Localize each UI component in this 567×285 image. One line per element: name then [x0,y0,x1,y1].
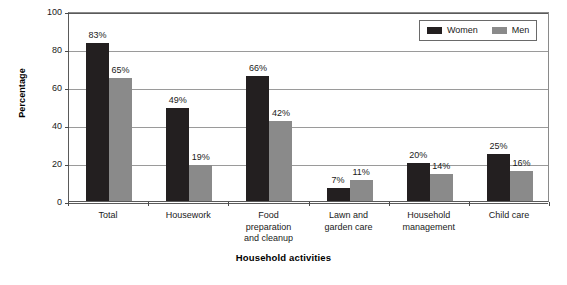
legend-label: Women [447,26,478,35]
x-axis-tick-mark [469,202,470,206]
legend-entry: Men [492,26,530,35]
x-axis-category-label: Foodpreparationand cleanup [222,210,314,245]
bar-men [189,165,212,201]
y-axis-tick-label: 20 [34,160,62,169]
bar-value-label: 66% [242,64,273,73]
x-axis-category-label-line: preparation [222,222,314,234]
bar-women [246,76,269,201]
x-axis-category-label-line: Housework [142,210,234,222]
x-axis-category-label: Child care [463,210,555,222]
legend-entry: Women [427,26,478,35]
y-axis-tick-label: 40 [34,122,62,131]
x-axis-tick-mark [549,202,550,206]
bar-value-label: 49% [162,96,193,105]
y-axis-tick-label: 0 [34,198,62,207]
x-axis-tick-mark [68,202,69,206]
bar-value-label: 20% [403,151,434,160]
x-axis-category-label: Total [62,210,154,222]
bar-men [350,180,373,201]
x-axis-category-label-line: management [383,222,475,234]
x-axis-category-label: Lawn andgarden care [303,210,395,233]
x-axis-tick-mark [309,202,310,206]
bar-men [430,174,453,201]
x-axis-category-label-line: Child care [463,210,555,222]
x-axis-title: Household activities [0,252,567,263]
x-axis-tick-mark [148,202,149,206]
x-axis-tick-mark [389,202,390,206]
bar-value-label: 42% [265,109,296,118]
x-axis-category-label: Housework [142,210,234,222]
bar-group: 7%11% [310,13,390,201]
bar-group: 20%14% [390,13,470,201]
bar-group: 49%19% [149,13,229,201]
chart-legend: WomenMen [419,20,537,41]
bar-value-label: 83% [82,31,113,40]
y-axis-tick-label: 100 [34,8,62,17]
bar-value-label: 11% [346,168,377,177]
y-axis-tick-label: 80 [34,46,62,55]
bar-group: 83%65% [69,13,149,201]
bar-value-label: 65% [105,66,136,75]
legend-swatch-icon [492,27,507,34]
bar-group: 66%42% [229,13,309,201]
x-axis-category-label-line: Lawn and [303,210,395,222]
bar-men [109,78,132,202]
bar-value-label: 25% [483,142,514,151]
legend-swatch-icon [427,27,442,34]
x-axis-category-label-line: Total [62,210,154,222]
bar-value-label: 19% [185,153,216,162]
bar-group: 25%16% [470,13,550,201]
x-axis-category-label-line: Household [383,210,475,222]
x-axis-category-label-line: Food [222,210,314,222]
bar-men [510,171,533,201]
x-axis-category-label: Householdmanagement [383,210,475,233]
x-axis-category-label-line: and cleanup [222,233,314,245]
bar-value-label: 14% [426,162,457,171]
x-axis-category-label-line: garden care [303,222,395,234]
y-axis-tick-label: 60 [34,84,62,93]
legend-label: Men [512,26,530,35]
bar-value-label: 16% [506,159,537,168]
bar-women [327,188,350,201]
bar-men [269,121,292,201]
y-axis-title: Percentage [17,45,27,141]
bar-chart: Percentage 020406080100 83%65%49%19%66%4… [0,0,567,285]
x-axis-tick-mark [228,202,229,206]
